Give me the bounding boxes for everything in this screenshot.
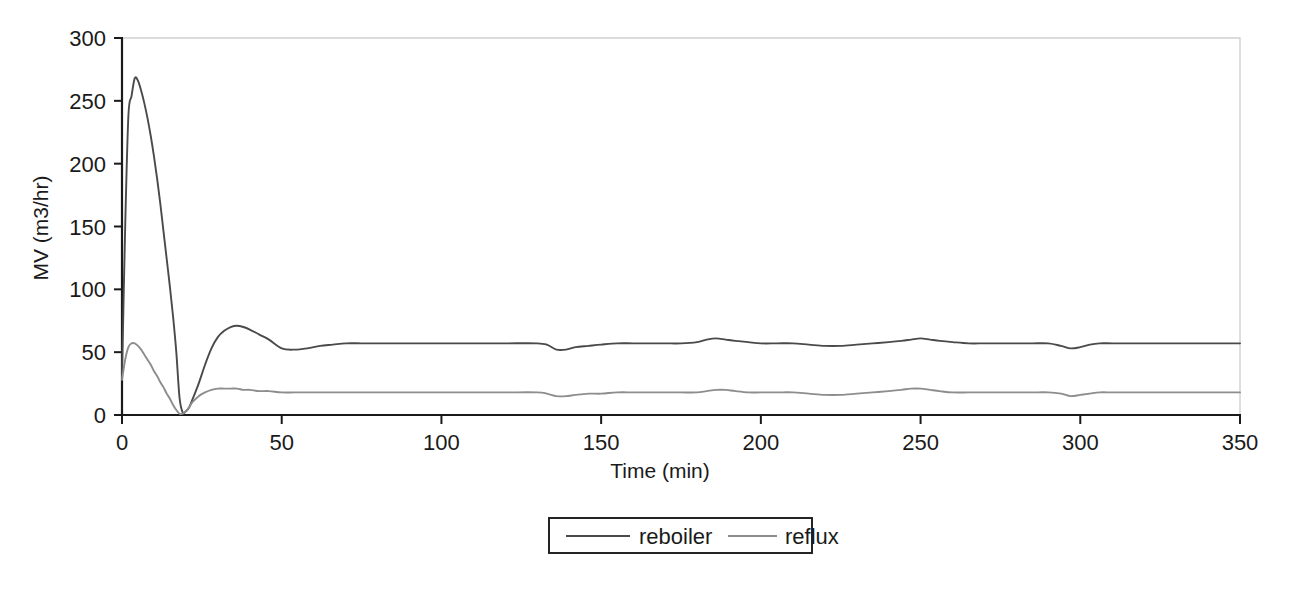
x-tick-label: 0	[116, 430, 128, 455]
y-axis-title: MV (m3/hr)	[29, 176, 52, 281]
x-tick-label: 350	[1222, 430, 1259, 455]
legend-label-reflux: reflux	[785, 524, 839, 549]
chart-figure: 050100150200250300 050100150200250300350…	[0, 0, 1299, 594]
legend-label-reboiler: reboiler	[639, 524, 712, 549]
chart-legend[interactable]: reboiler reflux	[549, 518, 839, 553]
y-tick-label: 50	[82, 340, 106, 365]
x-tick-label: 150	[583, 430, 620, 455]
x-tick-label: 100	[423, 430, 460, 455]
x-axis-title: Time (min)	[610, 459, 710, 482]
x-tick-label: 50	[269, 430, 293, 455]
y-tick-label: 300	[69, 26, 106, 51]
y-tick-label: 250	[69, 89, 106, 114]
y-tick-label: 0	[94, 403, 106, 428]
line-chart-svg: 050100150200250300 050100150200250300350…	[0, 0, 1299, 594]
y-tick-label: 100	[69, 277, 106, 302]
x-tick-label: 300	[1062, 430, 1099, 455]
y-tick-label: 200	[69, 152, 106, 177]
x-tick-label: 200	[742, 430, 779, 455]
x-tick-label: 250	[902, 430, 939, 455]
y-tick-label: 150	[69, 215, 106, 240]
chart-background	[0, 0, 1299, 594]
